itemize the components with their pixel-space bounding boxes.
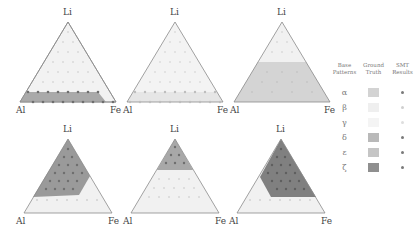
vertex-label-al: Al [123, 106, 132, 115]
legend-swatch [368, 148, 379, 157]
vertex-label-fe: Fe [321, 217, 332, 226]
ternary-plot-delta [22, 137, 114, 213]
vertex-label-fe: Fe [110, 106, 121, 115]
legend-dot [401, 106, 404, 109]
legend-header: Base Patterns Ground Truth SMT Results [330, 62, 417, 76]
vertex-label-al: Al [123, 217, 132, 226]
legend-row-beta: β [330, 100, 417, 115]
legend-dot [401, 151, 404, 154]
ternary-plot-epsilon [129, 137, 221, 213]
legend-swatch [368, 133, 379, 142]
legend-symbol: ζ [330, 163, 359, 172]
vertex-label-al: Al [16, 106, 25, 115]
ternary-panel-zeta: Li Al Fe [235, 137, 327, 213]
ternary-panel-epsilon: Li Al Fe [129, 137, 221, 213]
legend-row-alpha: α [330, 85, 417, 100]
ternary-panel-gamma: Li Al Fe [232, 20, 332, 102]
vertex-label-fe: Fe [108, 217, 119, 226]
ternary-panel-beta: Li Al Fe [125, 20, 225, 102]
ternary-plot-gamma [232, 20, 332, 102]
vertex-label-li: Li [63, 125, 72, 134]
ternary-plot-zeta [235, 137, 327, 213]
legend-symbol: ε [330, 148, 359, 157]
legend-symbol: β [330, 103, 359, 112]
ternary-plot-alpha [18, 20, 118, 102]
ternary-panel-delta: Li Al Fe [22, 137, 114, 213]
vertex-label-al: Al [229, 217, 238, 226]
legend-row-epsilon: ε [330, 145, 417, 160]
legend-dot [401, 166, 404, 169]
vertex-label-li: Li [63, 8, 72, 17]
legend-row-zeta: ζ [330, 160, 417, 175]
vertex-label-li: Li [170, 125, 179, 134]
vertex-label-fe: Fe [215, 217, 226, 226]
legend-swatch [368, 118, 379, 127]
vertex-label-al: Al [16, 217, 25, 226]
legend: Base Patterns Ground Truth SMT Results α… [330, 62, 417, 175]
vertex-label-fe: Fe [217, 106, 228, 115]
legend-header-ground-truth: Ground Truth [359, 62, 388, 76]
legend-row-delta: δ [330, 130, 417, 145]
vertex-label-li: Li [277, 8, 286, 17]
legend-symbol: α [330, 88, 359, 97]
legend-swatch [368, 103, 379, 112]
legend-symbol: δ [330, 133, 359, 142]
ternary-plot-beta [125, 20, 225, 102]
vertex-label-al: Al [230, 106, 239, 115]
legend-header-base-patterns: Base Patterns [330, 62, 359, 76]
legend-symbol: γ [330, 118, 359, 127]
vertex-label-li: Li [170, 8, 179, 17]
legend-dot [401, 136, 404, 139]
legend-row-gamma: γ [330, 115, 417, 130]
vertex-label-li: Li [276, 125, 285, 134]
legend-swatch [368, 88, 379, 97]
ternary-panel-alpha: Li Al Fe [18, 20, 118, 102]
legend-swatch [368, 163, 379, 172]
legend-header-smt-results: SMT Results [388, 62, 417, 76]
legend-dot [401, 121, 404, 124]
legend-dot [401, 91, 404, 94]
